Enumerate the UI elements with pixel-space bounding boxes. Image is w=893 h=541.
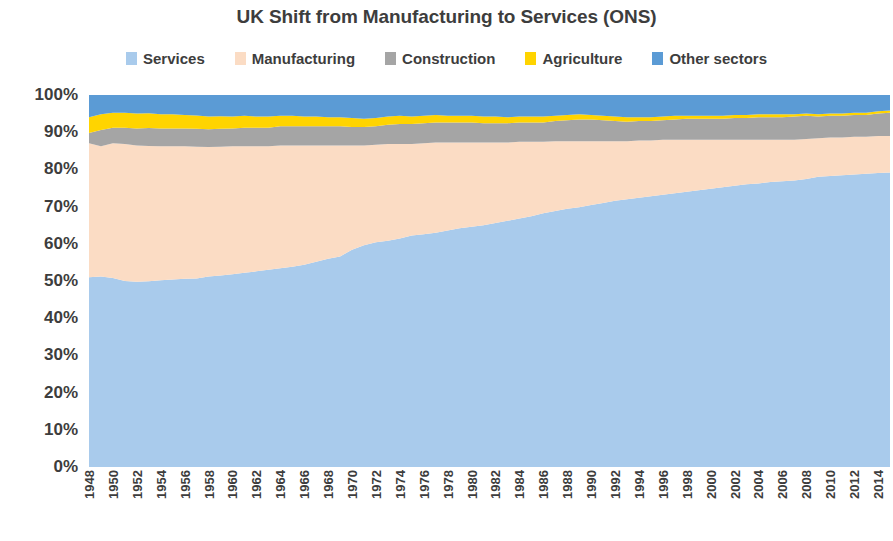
- x-axis-tick-label: 1982: [488, 470, 503, 499]
- legend-item-label: Services: [143, 50, 205, 67]
- x-axis-tick-label: 1960: [225, 470, 240, 499]
- stacked-area-plot: [89, 95, 890, 467]
- y-axis-tick-label: 20%: [44, 383, 78, 403]
- x-axis-tick-label: 1980: [464, 470, 479, 499]
- chart-container: UK Shift from Manufacturing to Services …: [0, 0, 893, 541]
- plot-area: [89, 95, 890, 467]
- x-axis-tick-label: 2012: [847, 470, 862, 499]
- x-axis-tick-label: 1976: [416, 470, 431, 499]
- legend-item-label: Agriculture: [542, 50, 622, 67]
- legend-swatch-icon: [385, 52, 396, 65]
- x-axis-tick-label: 1948: [82, 470, 97, 499]
- x-axis-tick-label: 1974: [392, 470, 407, 499]
- x-axis-tick-label: 1986: [536, 470, 551, 499]
- x-axis-tick-label: 1968: [321, 470, 336, 499]
- legend-item-other-sectors[interactable]: Other sectors: [652, 50, 767, 67]
- y-axis-tick-label: 30%: [44, 345, 78, 365]
- x-axis-tick-label: 2006: [775, 470, 790, 499]
- legend-swatch-icon: [235, 52, 246, 65]
- legend-item-label: Other sectors: [669, 50, 767, 67]
- x-axis-tick-label: 2008: [799, 470, 814, 499]
- y-axis-tick-label: 80%: [44, 159, 78, 179]
- legend-item-services[interactable]: Services: [126, 50, 205, 67]
- x-axis-tick-label: 1984: [512, 470, 527, 499]
- x-axis-tick-label: 1978: [440, 470, 455, 499]
- y-axis-tick-label: 90%: [44, 122, 78, 142]
- y-axis-tick-label: 70%: [44, 197, 78, 217]
- chart-title: UK Shift from Manufacturing to Services …: [0, 6, 893, 28]
- y-axis-tick-label: 100%: [35, 85, 78, 105]
- legend-swatch-icon: [126, 52, 137, 65]
- x-axis-tick-label: 2002: [727, 470, 742, 499]
- x-axis-tick-label: 1952: [129, 470, 144, 499]
- x-axis-tick-label: 1972: [368, 470, 383, 499]
- x-axis-tick-label: 1958: [201, 470, 216, 499]
- y-axis-tick-label: 40%: [44, 308, 78, 328]
- x-axis-tick-label: 1996: [655, 470, 670, 499]
- x-axis-tick-label: 1956: [177, 470, 192, 499]
- legend-swatch-icon: [525, 52, 536, 65]
- x-axis-tick-label: 1970: [345, 470, 360, 499]
- x-axis-tick-label: 2000: [703, 470, 718, 499]
- x-axis-tick-label: 1962: [249, 470, 264, 499]
- legend-item-agriculture[interactable]: Agriculture: [525, 50, 622, 67]
- y-axis-tick-label: 0%: [53, 457, 78, 477]
- x-axis-tick-label: 2004: [751, 470, 766, 499]
- legend-item-label: Manufacturing: [252, 50, 355, 67]
- x-axis-tick-label: 1954: [153, 470, 168, 499]
- y-axis-tick-label: 50%: [44, 271, 78, 291]
- x-axis-tick-label: 1950: [105, 470, 120, 499]
- x-axis-tick-label: 1988: [560, 470, 575, 499]
- x-axis-tick-label: 2010: [823, 470, 838, 499]
- legend-swatch-icon: [652, 52, 663, 65]
- y-axis: 100%90%80%70%60%50%40%30%20%10%0%: [0, 95, 84, 467]
- chart-legend: ServicesManufacturingConstructionAgricul…: [0, 50, 893, 67]
- legend-item-manufacturing[interactable]: Manufacturing: [235, 50, 355, 67]
- x-axis-tick-label: 1990: [584, 470, 599, 499]
- legend-item-label: Construction: [402, 50, 495, 67]
- x-axis-tick-label: 1994: [631, 470, 646, 499]
- x-axis-tick-label: 1966: [297, 470, 312, 499]
- x-axis-tick-label: 1964: [273, 470, 288, 499]
- legend-item-construction[interactable]: Construction: [385, 50, 495, 67]
- x-axis: 1948195019521954195619581960196219641966…: [89, 470, 890, 532]
- x-axis-tick-label: 1992: [608, 470, 623, 499]
- y-axis-tick-label: 60%: [44, 234, 78, 254]
- x-axis-tick-label: 2014: [871, 470, 886, 499]
- x-axis-tick-label: 1998: [679, 470, 694, 499]
- y-axis-tick-label: 10%: [44, 420, 78, 440]
